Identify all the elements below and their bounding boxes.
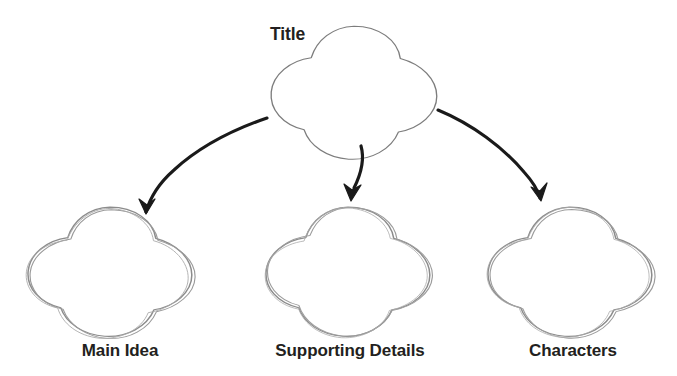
characters-node-shape[interactable] (486, 206, 657, 339)
title-node-label: Title (270, 26, 305, 44)
supporting-details-node-shape[interactable] (264, 206, 434, 339)
diagram-canvas: Title Main Idea Supporting Details Chara… (0, 0, 677, 376)
supporting-details-node-label: Supporting Details (275, 342, 424, 359)
main-idea-node-shape[interactable] (24, 207, 197, 340)
arrow-title-to-supporting-details (344, 146, 363, 201)
main-idea-node-label: Main Idea (82, 342, 159, 359)
arrow-title-to-main-idea (139, 118, 267, 214)
diagram-vector-layer (0, 0, 677, 376)
characters-node-label: Characters (529, 342, 617, 359)
title-node-shape[interactable] (271, 26, 437, 159)
arrow-title-to-characters (438, 110, 547, 201)
